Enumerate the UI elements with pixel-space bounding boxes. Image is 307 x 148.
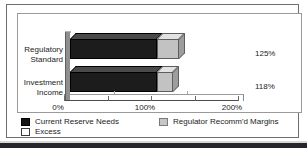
category-label-line1: Regulatory <box>7 45 63 55</box>
category-label-investment-income: Investment Income <box>7 78 63 97</box>
chart-frame: Investment Income Compared to Needs of R… <box>6 4 299 138</box>
legend-label: Current Reserve Needs <box>35 117 119 126</box>
data-label-regulatory-standard: 125% <box>255 49 295 58</box>
axis-tick-label-100: 100% <box>125 103 165 112</box>
category-label-line2: Income <box>7 88 63 98</box>
axis-tick-label-200: 200% <box>212 103 252 112</box>
white-swatch-icon <box>21 128 30 136</box>
legend-item-current-reserve-needs[interactable]: Current Reserve Needs <box>21 117 119 126</box>
data-label-investment-income: 118% <box>255 82 295 91</box>
gray-swatch-icon <box>159 118 168 126</box>
legend-label: Regulator Recomm'd Margins <box>173 117 279 126</box>
category-label-regulatory-standard: Regulatory Standard <box>7 45 63 64</box>
legend-item-regulator-margins[interactable]: Regulator Recomm'd Margins <box>159 117 279 126</box>
legend-item-excess[interactable]: Excess <box>21 127 61 136</box>
legend-label: Excess <box>35 127 61 136</box>
category-label-line2: Standard <box>7 55 63 65</box>
chart-legend: Current Reserve Needs Excess Regulator R… <box>7 116 300 138</box>
black-swatch-icon <box>21 118 30 126</box>
axis-tick-label-0: 0% <box>38 103 78 112</box>
category-label-line1: Investment <box>7 78 63 88</box>
page-bottom-band <box>0 143 307 148</box>
screenshot-root: Investment Income Compared to Needs of R… <box>0 0 307 148</box>
